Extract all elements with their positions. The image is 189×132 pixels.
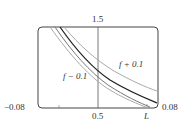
annotation-f-minus: f − 0.1: [63, 72, 87, 81]
curve-f-plus: [64, 27, 157, 91]
x-left-label: −0.08: [4, 103, 25, 112]
x-mid-label: 0.5: [92, 112, 103, 121]
y-top-label: 1.5: [92, 15, 103, 24]
annotation-f-plus: f + 0.1: [119, 60, 143, 69]
x-right-label: 0.08: [162, 103, 178, 112]
x-marker-L: L: [144, 112, 149, 121]
